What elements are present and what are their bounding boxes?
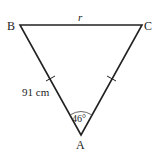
side-label-bc: r (78, 11, 83, 23)
vertex-label-b: B (7, 19, 15, 33)
angle-label-a: 46° (72, 113, 86, 124)
side-label-ab: 91 cm (22, 86, 50, 98)
vertex-label-a: A (76, 138, 85, 150)
vertex-label-c: C (144, 19, 152, 33)
triangle-diagram: B C A r 91 cm 46° (0, 0, 157, 150)
